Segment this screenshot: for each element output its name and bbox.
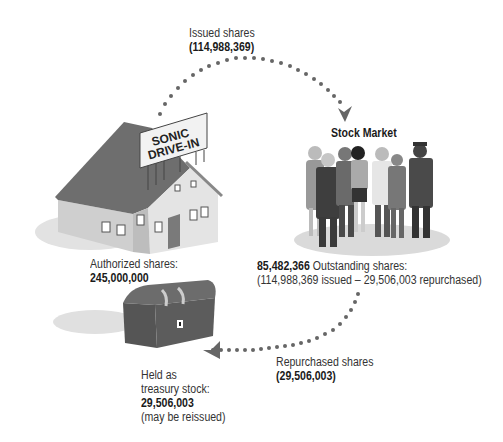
- issued-value: (114,988,369): [189, 40, 255, 54]
- authorized-label-text: Authorized shares:: [90, 257, 178, 271]
- treasury-line2: treasury stock:: [141, 382, 226, 396]
- outstanding-shares-label: 85,482,366 Outstanding shares: (114,988,…: [257, 259, 482, 287]
- repurchased-label-text: Repurchased shares: [276, 355, 373, 369]
- issued-shares-label: Issued shares (114,988,369): [189, 26, 255, 54]
- issued-arrow: [158, 56, 352, 122]
- outstanding-label-text: Outstanding shares:: [310, 259, 407, 273]
- outstanding-value: 85,482,366: [257, 259, 310, 273]
- treasury-value: 29,506,003: [141, 396, 226, 410]
- stock-market-people: [294, 142, 450, 256]
- outstanding-detail: (114,988,369 issued – 29,506,003 repurch…: [257, 273, 482, 287]
- stock-market-title: Stock Market: [331, 126, 397, 140]
- issued-label-text: Issued shares: [189, 26, 255, 40]
- treasury-chest: [53, 280, 216, 348]
- diagram-canvas: [0, 0, 503, 442]
- repurchased-arrow: [203, 292, 360, 359]
- treasury-stock-label: Held as treasury stock: 29,506,003 (may …: [141, 368, 226, 424]
- authorized-shares-label: Authorized shares: 245,000,000: [90, 257, 178, 285]
- repurchased-shares-label: Repurchased shares (29,506,003): [276, 355, 373, 383]
- treasury-note: (may be reissued): [141, 410, 226, 424]
- treasury-line1: Held as: [141, 368, 226, 382]
- repurchased-value: (29,506,003): [276, 369, 373, 383]
- authorized-value: 245,000,000: [90, 271, 178, 285]
